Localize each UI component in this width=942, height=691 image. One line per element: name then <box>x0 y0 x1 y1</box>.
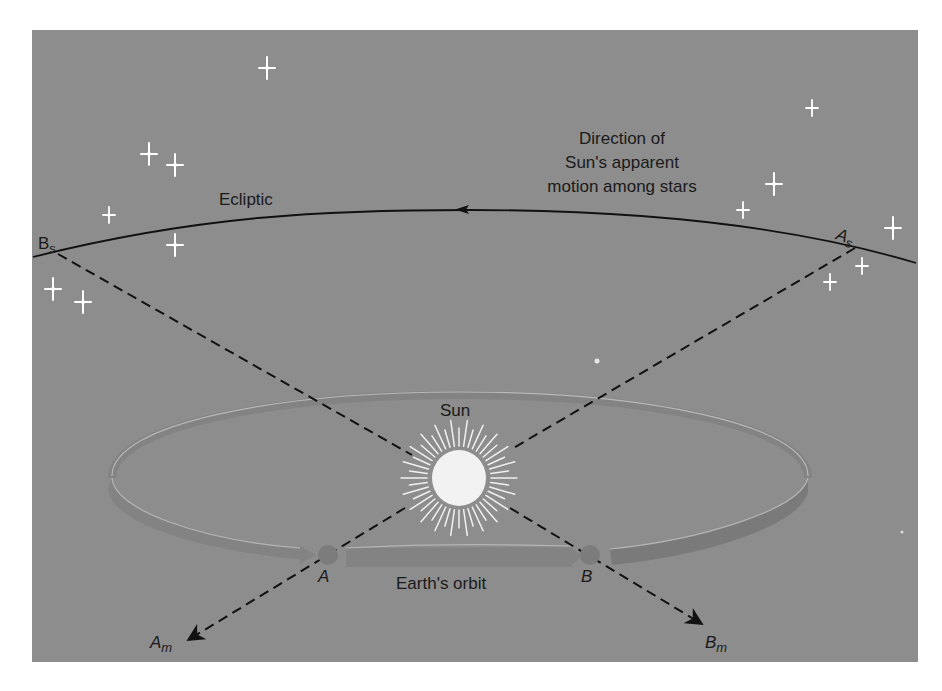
star-icon <box>885 217 901 239</box>
bs-main: B <box>38 234 49 253</box>
star-icon <box>806 100 818 116</box>
star-icon <box>45 278 61 300</box>
direction-line-3: motion among stars <box>512 177 732 197</box>
star-icon <box>141 143 157 165</box>
earth-orbit-label: Earth's orbit <box>396 574 486 594</box>
bm-label: Bm <box>705 633 727 654</box>
direction-line-2: Sun's apparent <box>512 153 732 173</box>
star-icon <box>167 154 183 176</box>
bm-sub: m <box>716 640 727 655</box>
star-icon <box>901 531 904 534</box>
bm-main: B <box>705 633 716 652</box>
sun-icon <box>401 421 517 536</box>
star-icon <box>856 258 868 274</box>
earth-position-a <box>318 545 338 565</box>
direction-line-1: Direction of <box>512 129 732 149</box>
star-icon <box>167 234 183 256</box>
star-icon <box>259 57 275 79</box>
diagram-stage: Ecliptic Direction of Sun's apparent mot… <box>0 0 942 691</box>
bs-label: Bs <box>38 234 56 255</box>
star-icon <box>103 207 115 223</box>
earth-position-b <box>580 545 600 565</box>
point-b-label: B <box>581 567 592 587</box>
star-icon <box>824 274 836 290</box>
star-icon <box>75 291 91 313</box>
star-icon <box>737 202 749 218</box>
ecliptic-curve <box>33 210 916 263</box>
star-icon <box>595 359 600 364</box>
star-icon <box>766 173 782 195</box>
am-label: Am <box>150 633 172 654</box>
ecliptic-label: Ecliptic <box>219 190 273 210</box>
bs-sub: s <box>49 241 56 256</box>
sun-label: Sun <box>440 401 470 421</box>
point-a-label: A <box>318 567 329 587</box>
am-main: A <box>150 633 161 652</box>
am-sub: m <box>161 640 172 655</box>
